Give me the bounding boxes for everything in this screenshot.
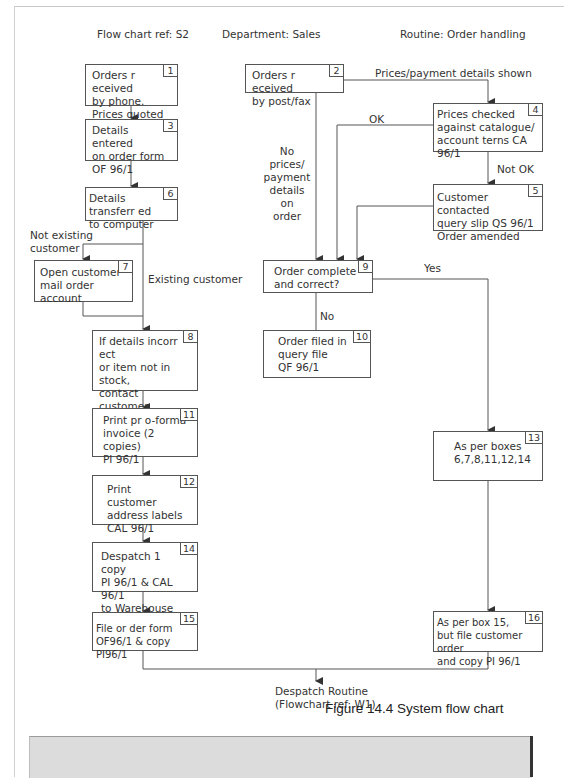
label-ok: OK bbox=[369, 113, 384, 126]
box-number: 13 bbox=[525, 431, 543, 444]
box-7-open-account: Open customer mail order account 7 bbox=[34, 260, 133, 302]
box-number: 6 bbox=[163, 187, 178, 200]
box-text: Orders r eceived by phone. Prices quoted bbox=[92, 69, 171, 121]
box-9-order-complete-decision: Order complete and correct? 9 bbox=[263, 260, 373, 293]
box-text: Prices checked against catalogue/ accoun… bbox=[437, 108, 539, 160]
box-14-despatch-copy: Despatch 1 copy PI 96/1 & CAL 96/1 to Wa… bbox=[92, 542, 198, 592]
box-text: Details transferr ed to computer bbox=[89, 192, 174, 231]
box-number: 7 bbox=[118, 260, 133, 273]
box-number: 11 bbox=[180, 408, 198, 421]
box-number: 16 bbox=[525, 611, 543, 624]
figure-caption: Figure 14.4 System flow chart bbox=[325, 701, 504, 716]
box-12-address-labels: Print customer address labels CAL 96/1 1… bbox=[92, 475, 198, 525]
label-not-existing-customer: Not existing customer bbox=[30, 229, 93, 255]
box-number: 12 bbox=[180, 475, 198, 488]
box-text: Details entered on order form OF 96/1 bbox=[92, 124, 171, 176]
box-text: Customer contacted query slip QS 96/1 Or… bbox=[437, 191, 539, 243]
box-text: Order filed in query file QF 96/1 bbox=[278, 335, 356, 374]
bottom-gray-band bbox=[29, 736, 532, 778]
label-prices-shown: Prices/payment details shown bbox=[375, 67, 532, 80]
box-1-phone-orders: Orders r eceived by phone. Prices quoted… bbox=[85, 64, 178, 106]
label-no: No bbox=[320, 310, 334, 323]
box-11-proforma-invoice: Print pr o-forma invoice (2 copies) PI 9… bbox=[92, 408, 198, 457]
box-4-prices-checked: Prices checked against catalogue/ accoun… bbox=[433, 103, 543, 152]
box-number: 5 bbox=[528, 184, 543, 197]
box-16-as-per-box-15: As per box 15, but file customer order a… bbox=[433, 611, 543, 652]
box-text: Open customer mail order account bbox=[40, 266, 127, 305]
label-no-prices: No prices/ payment details on order bbox=[262, 145, 312, 223]
box-text: Orders r eceived by post/fax bbox=[252, 69, 337, 108]
box-8-check-details: If details incorr ect or item not in sto… bbox=[92, 330, 198, 391]
box-10-query-file: Order filed in query file QF 96/1 10 bbox=[263, 330, 371, 378]
box-15-file-order-form: File or der form OF96/1 & copy PI96/1 15 bbox=[92, 612, 198, 651]
box-number: 2 bbox=[329, 64, 344, 77]
bottom-band-edge bbox=[530, 736, 533, 777]
box-number: 14 bbox=[180, 542, 198, 555]
label-not-ok: Not OK bbox=[497, 163, 534, 176]
box-number: 1 bbox=[163, 64, 178, 77]
box-number: 9 bbox=[358, 260, 373, 273]
box-number: 4 bbox=[528, 103, 543, 116]
label-yes: Yes bbox=[424, 262, 441, 275]
box-number: 8 bbox=[183, 330, 198, 343]
box-text: Print customer address labels CAL 96/1 bbox=[107, 483, 183, 535]
box-13-as-per-boxes: As per boxes 6,7,8,11,12,14 13 bbox=[433, 431, 543, 481]
box-3-order-form: Details entered on order form OF 96/1 3 bbox=[85, 119, 178, 161]
box-2-post-fax-orders: Orders r eceived by post/fax 2 bbox=[245, 64, 344, 93]
box-text: File or der form OF96/1 & copy PI96/1 bbox=[96, 622, 194, 661]
box-text: Print pr o-forma invoice (2 copies) PI 9… bbox=[103, 414, 187, 466]
box-number: 15 bbox=[180, 612, 198, 625]
box-number: 10 bbox=[353, 330, 371, 343]
box-number: 3 bbox=[163, 119, 178, 132]
box-text: Despatch 1 copy PI 96/1 & CAL 96/1 to Wa… bbox=[101, 550, 189, 615]
box-text: Order complete and correct? bbox=[274, 265, 362, 291]
label-existing-customer: Existing customer bbox=[148, 273, 242, 286]
box-5-customer-contacted: Customer contacted query slip QS 96/1 Or… bbox=[433, 184, 543, 231]
box-text: As per boxes 6,7,8,11,12,14 bbox=[454, 440, 522, 466]
box-text: As per box 15, but file customer order a… bbox=[437, 616, 539, 668]
box-6-transfer-computer: Details transferr ed to computer 6 bbox=[85, 187, 178, 221]
